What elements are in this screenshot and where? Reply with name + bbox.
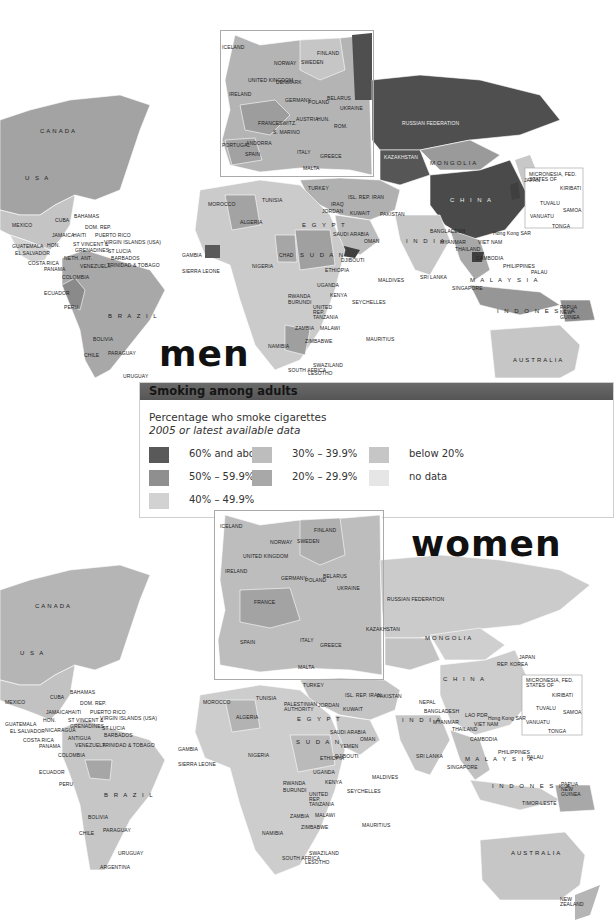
label-malaysia: M A L A Y S I A (470, 277, 540, 283)
label-rep-korea: REP. KOREA (497, 662, 528, 667)
label-bangladesh: BANGLADESH (424, 709, 459, 714)
label-russia: RUSSIAN FEDERATION (402, 121, 459, 126)
label-norway: NORWAY (270, 540, 292, 545)
label-grenadines: GRENADINES (70, 724, 104, 729)
label-cambodia: CAMBODIA (470, 737, 497, 742)
label-guatemala: GUATEMALA (12, 244, 43, 249)
label-tanzania: UNITED REP. TANZANIA (313, 305, 343, 320)
label-mongolia: MONGOLIA (425, 635, 473, 641)
label-kenya: KENYA (325, 780, 342, 785)
label-france: FRANCE (258, 121, 279, 126)
label-austria: AUSTRIA (296, 117, 318, 122)
label-morocco: MOROCCO (208, 202, 235, 207)
label-samoa: SAMOA (563, 710, 582, 715)
label-colombia: COLOMBIA (58, 753, 85, 758)
label-chad: CHAD (279, 253, 294, 258)
label-mauritius: MAURITIUS (366, 337, 394, 342)
label-bolivia: BOLIVIA (93, 337, 113, 342)
label-mongolia: MONGOLIA (430, 160, 478, 166)
label-algeria: ALGERIA (240, 220, 262, 225)
label-iran: ISL. REP. IRAN (345, 693, 381, 698)
legend-swatch (252, 470, 272, 486)
label-malta: MALTA (303, 166, 319, 171)
label-seychelles: SEYCHELLES (352, 300, 386, 305)
label-cambodia: CAMBODIA (476, 256, 503, 261)
label-timor: TIMOR-LESTE (522, 801, 557, 806)
legend-label: 30% – 39.9% (292, 448, 357, 459)
label-jamaica: JAMAICA (46, 710, 68, 715)
label-morocco: MOROCCO (203, 700, 230, 705)
label-iceland: ICELAND (220, 524, 242, 529)
label-virgin-islands: VIRGIN ISLANDS (USA) (100, 716, 157, 721)
label-ecuador: ECUADOR (44, 291, 70, 296)
label-italy: ITALY (297, 150, 311, 155)
label-oman: OMAN (364, 239, 379, 244)
legend-swatch (252, 447, 272, 463)
label-namibia: NAMIBIA (268, 344, 289, 349)
label-paraguay: PARAGUAY (103, 828, 131, 833)
label-switz: SWITZ. (279, 121, 297, 126)
label-argentina: ARGENTINA (100, 865, 130, 870)
label-tanzania: UNITED REP. TANZANIA (309, 792, 339, 807)
label-nigeria: NIGERIA (248, 753, 269, 758)
label-russia: RUSSIAN FEDERATION (387, 597, 444, 602)
label-trinidad: TRINIDAD & TOBAGO (107, 263, 160, 268)
label-usa: U S A (20, 650, 45, 656)
legend-swatch (369, 470, 389, 486)
label-puerto-rico: PUERTO RICO (95, 233, 131, 238)
label-png: PAPUA NEW GUINEA (560, 305, 590, 320)
label-s-marino: S. MARINO (273, 130, 300, 135)
legend-item: below 20% (369, 447, 509, 463)
label-china: C H I N A (450, 197, 493, 203)
label-philippines: PHILIPPINES (498, 750, 530, 755)
label-thailand: THAILAND (452, 727, 478, 732)
legend-panel: Smoking among adults Percentage who smok… (139, 382, 614, 518)
label-sri-lanka: SRI LANKA (416, 754, 443, 759)
label-spain: SPAIN (245, 152, 260, 157)
label-myanmar: MYANMAR (440, 240, 466, 245)
label-belarus: BELARUS (323, 574, 347, 579)
label-tunisia: TUNISIA (262, 198, 282, 203)
label-new-zealand: NEW ZEALAND (560, 897, 585, 907)
label-mexico: MEXICO (5, 700, 25, 705)
label-sri-lanka: SRI LANKA (420, 275, 447, 280)
label-barbados: BARBADOS (111, 256, 140, 261)
label-lesotho: LESOTHO (305, 860, 330, 865)
label-thailand: THAILAND (455, 247, 481, 252)
label-virgin-islands: VIRGIN ISLANDS (USA) (104, 240, 161, 245)
label-kenya: KENYA (330, 293, 347, 298)
label-iceland: ICELAND (222, 45, 244, 50)
label-grenadines: GRENADINES (75, 248, 109, 253)
label-malawi: MALAWI (315, 813, 335, 818)
label-gambia: GAMBIA (178, 747, 198, 752)
label-burundi: BURUNDI (283, 788, 306, 793)
label-kiribati: KIRIBATI (560, 186, 581, 191)
label-ireland: IRELAND (229, 92, 251, 97)
label-guatemala: GUATEMALA (5, 722, 36, 727)
label-chile: CHILE (84, 353, 99, 358)
legend-label: no data (409, 471, 447, 482)
label-brazil: B R A Z I L (108, 313, 159, 319)
label-lao: LAO PDR (465, 713, 488, 718)
label-bahamas: BAHAMAS (74, 214, 99, 219)
label-bahamas: BAHAMAS (70, 690, 95, 695)
label-greece: GREECE (320, 154, 342, 159)
label-tuvalu: TUVALU (540, 201, 560, 206)
label-sudan: S U D A N (296, 739, 341, 745)
label-germany: GERMANY (281, 576, 307, 581)
label-uk: UNITED KINGDOM (243, 554, 288, 559)
label-australia: AUSTRALIA (511, 850, 562, 856)
label-lesotho: LESOTHO (308, 371, 333, 376)
label-panama: PANAMA (44, 267, 65, 272)
label-dom-rep: DOM. REP. (80, 701, 106, 706)
label-uganda: UGANDA (313, 770, 335, 775)
label-micronesia: MICRONESIA, FED. STATES OF (529, 172, 579, 182)
label-spain: SPAIN (240, 640, 255, 645)
label-mauritius: MAURITIUS (362, 823, 390, 828)
label-ethiopia: ETHIOPIA (325, 268, 349, 273)
label-sweden: SWEDEN (297, 539, 320, 544)
label-hon: HON. (43, 718, 56, 723)
label-canada: CANADA (35, 603, 72, 609)
label-jordan: JORDAN (322, 209, 343, 214)
label-egypt: E G Y P T (302, 222, 347, 228)
